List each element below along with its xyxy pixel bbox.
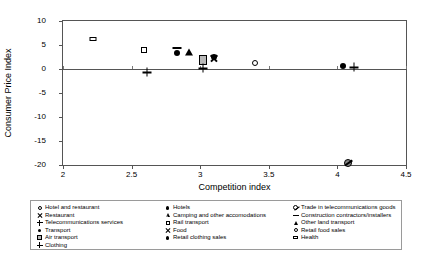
x-axis-tick: [337, 165, 338, 169]
open-tri-icon: [163, 212, 172, 220]
y-axis-tick-label: -15: [34, 137, 46, 145]
data-point: [185, 49, 193, 56]
legend-item-label: Telecommunications services: [45, 219, 123, 227]
x-axis-minor-tick: [406, 66, 407, 69]
x-axis-tick-label: 2: [61, 170, 65, 179]
data-point: [90, 37, 97, 41]
y-axis-tick: [59, 69, 63, 70]
data-point: [344, 159, 352, 167]
legend-item-label: Other land transport: [301, 219, 354, 227]
legend-item-label: Rail transport: [173, 219, 209, 227]
legend-item-label: Hotels: [173, 204, 190, 212]
open-circle-icon: [291, 227, 300, 235]
y-axis-tick: [59, 21, 63, 22]
legend-item: Telecommunications services: [35, 219, 163, 227]
open-circle-icon: [35, 204, 44, 212]
x-axis-tick: [63, 165, 64, 169]
data-point: [211, 54, 217, 60]
cross-icon: [163, 227, 172, 235]
legend-item: Retail clothing sales: [163, 234, 291, 242]
x-axis-tick: [132, 165, 133, 169]
dash-icon: [291, 212, 300, 220]
legend-item-label: Restaurant: [45, 212, 74, 220]
legend-item: Hotel and restaurant: [35, 204, 163, 212]
legend-item: Retail food sales: [291, 227, 396, 235]
legend-item-label: Camping and other accomodations: [173, 212, 266, 220]
legend-column: HotelsCamping and other accomodationsRai…: [163, 204, 291, 249]
x-axis-minor-tick: [132, 66, 133, 69]
x-axis-minor-tick: [63, 66, 64, 69]
filled-circle-icon: [163, 204, 172, 212]
plus-icon: [35, 219, 44, 227]
legend-item-label: Hotel and restaurant: [45, 204, 99, 212]
y-axis-tick: [59, 45, 63, 46]
y-axis-label: Consumer Price Index: [2, 20, 14, 166]
x-axis-tick-label: 4: [335, 170, 339, 179]
legend-item-label: Clothing: [45, 242, 67, 250]
grey-square-icon: [35, 234, 44, 242]
legend-item-label: Air transport: [45, 234, 78, 242]
x-axis-tick: [269, 165, 270, 169]
y-axis-tick: [59, 141, 63, 142]
data-point: [141, 47, 147, 53]
legend-item-label: Trade in telecommunications goods: [301, 204, 396, 212]
data-point: [340, 63, 346, 69]
y-axis-tick-label: 0: [41, 65, 45, 73]
legend-item: Other land transport: [291, 219, 396, 227]
x-axis-tick: [200, 165, 201, 169]
legend: Hotel and restaurantRestaurantTelecommun…: [30, 200, 402, 250]
filled-circle-icon: [35, 227, 44, 235]
legend-column: Trade in telecommunications goodsConstru…: [291, 204, 396, 249]
legend-item: Transport: [35, 227, 163, 235]
legend-item: Trade in telecommunications goods: [291, 204, 396, 212]
data-point: [142, 68, 151, 77]
data-point: [198, 64, 207, 73]
legend-item: Hotels: [163, 204, 291, 212]
chart-figure: Consumer Price Index 1050-5-10-15-2022.5…: [0, 0, 430, 260]
x-axis-minor-tick: [269, 66, 270, 69]
x-axis-tick: [406, 165, 407, 169]
legend-item: Food: [163, 227, 291, 235]
x-axis-label: Competition index: [62, 182, 407, 193]
y-axis-tick: [59, 93, 63, 94]
legend-item-label: Retail food sales: [301, 227, 345, 235]
y-axis-tick-label: -10: [34, 113, 46, 121]
legend-item-label: Health: [301, 234, 318, 242]
legend-item-label: Transport: [45, 227, 70, 235]
legend-item-label: Food: [173, 227, 187, 235]
data-point: [252, 60, 258, 66]
data-point: [174, 50, 180, 56]
legend-item: Camping and other accomodations: [163, 212, 291, 220]
y-axis-tick: [59, 117, 63, 118]
legend-item-label: Retail clothing sales: [173, 234, 226, 242]
x-axis-tick-label: 3: [198, 170, 202, 179]
x-axis-tick-label: 4.5: [400, 170, 411, 179]
y-axis-tick-label: 10: [37, 17, 46, 25]
legend-column: Hotel and restaurantRestaurantTelecommun…: [35, 204, 163, 249]
legend-item-label: Construction contractors/installers: [301, 212, 391, 220]
x-axis-minor-tick: [337, 66, 338, 69]
legend-item: Air transport: [35, 234, 163, 242]
x-axis-tick-label: 2.5: [126, 170, 137, 179]
y-axis-tick-label: -5: [39, 89, 46, 97]
legend-item: Rail transport: [163, 219, 291, 227]
cross-icon: [35, 212, 44, 220]
legend-item: Restaurant: [35, 212, 163, 220]
y-axis-tick-label: -20: [34, 161, 46, 169]
x-axis-tick-label: 3.5: [263, 170, 274, 179]
y-axis-tick-label: 5: [41, 41, 45, 49]
data-point: [349, 63, 358, 72]
plus-icon: [35, 242, 44, 250]
filled-tri-icon: [291, 219, 300, 227]
plot-area: 1050-5-10-15-2022.533.544.5: [62, 20, 407, 166]
circle-slash-icon: [291, 204, 300, 212]
filled-circle-icon: [163, 234, 172, 242]
legend-item: Clothing: [35, 242, 163, 250]
legend-item: Health: [291, 234, 396, 242]
flat-rect-icon: [291, 234, 300, 242]
legend-item: Construction contractors/installers: [291, 212, 396, 220]
open-square-icon: [163, 219, 172, 227]
